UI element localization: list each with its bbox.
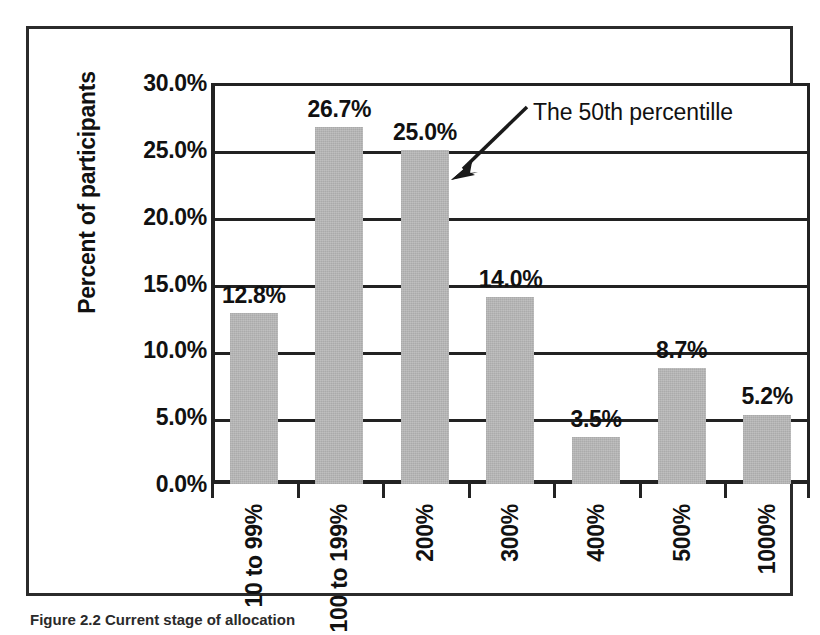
x-axis-tick-label: 400% [585,504,608,562]
y-axis-tick-label: 10.0% [87,339,207,362]
x-axis-tick-mark [382,484,385,498]
x-axis-tick-label: 500% [670,504,693,562]
y-axis-tick-labels: 0.0%5.0%10.0%15.0%20.0%25.0%30.0% [79,83,207,484]
x-axis-tick-label: 10 to 99% [242,504,265,607]
y-axis-tick-label: 25.0% [87,138,207,161]
y-axis-tick-label: 20.0% [87,205,207,228]
x-axis-tick-mark [639,484,642,498]
y-axis-tick-label: 5.0% [87,406,207,429]
x-axis-tick-mark [468,484,471,498]
figure-caption: Figure 2.2 Current stage of allocation [30,611,790,628]
figure-frame: Percent of participants 0.0%5.0%10.0%15.… [26,26,793,596]
annotation-label: The 50th percentille [533,99,733,127]
x-axis-tick-mark [807,484,810,498]
x-axis-tick-mark [211,484,214,498]
x-axis-tick-mark [297,484,300,498]
y-axis-tick-label: 30.0% [87,72,207,95]
gridline [215,419,807,422]
x-axis-tick-mark [724,484,727,498]
y-axis-tick-label: 15.0% [87,272,207,295]
arrow-down-left-icon [439,101,539,185]
x-axis-tick-label: 200% [413,504,436,562]
x-axis-tick-label: 1000% [756,504,779,574]
gridline [215,218,807,221]
x-axis-tick-mark [553,484,556,498]
gridline [215,352,807,355]
y-axis-tick-label: 0.0% [87,473,207,496]
x-axis-tick-label: 300% [499,504,522,562]
gridline [215,285,807,288]
